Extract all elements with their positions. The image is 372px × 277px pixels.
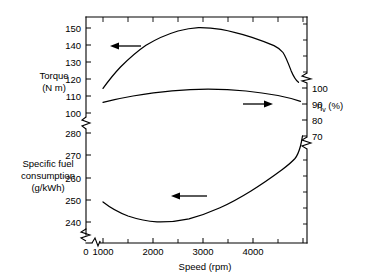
- ticklabel-torque-130: 130: [65, 57, 81, 68]
- eta-axis-title: ηv (%): [317, 100, 343, 113]
- ticklabel-eta-80: 80: [312, 115, 323, 126]
- ticklabel-x-0: 0: [83, 246, 88, 257]
- right-axis-break-upper: [302, 73, 311, 83]
- left-axis-ticks-torque: [86, 28, 91, 113]
- ticklabel-torque-100: 100: [65, 108, 81, 119]
- eta-v-curve: [103, 89, 301, 102]
- ticklabel-torque-140: 140: [65, 40, 81, 51]
- sfc-arrow: [171, 193, 207, 200]
- sfc-curve: [103, 136, 303, 222]
- torque-axis-title-line2: (N m): [42, 82, 66, 93]
- torque-arrow: [110, 43, 141, 50]
- eta-unit: (%): [328, 100, 343, 111]
- ticklabel-sfc-240: 240: [65, 217, 81, 228]
- torque-axis-title-line1: Torque: [39, 70, 68, 81]
- sfc-axis-title-line2: consumption: [21, 170, 75, 181]
- bottom-axis-ticks: [103, 238, 303, 243]
- ticklabel-sfc-250: 250: [65, 195, 81, 206]
- left-axis-ticks-sfc: [86, 133, 91, 222]
- plot-frame: [86, 17, 307, 243]
- ticklabel-torque-110: 110: [66, 91, 81, 102]
- eta-arrow: [243, 101, 273, 108]
- bottom-ticklabels: 0 1000 2000 3000 4000: [83, 246, 263, 257]
- right-axis-break-lower: [302, 137, 311, 149]
- torque-curve: [103, 28, 299, 89]
- ticklabel-x-3000: 3000: [192, 246, 213, 257]
- right-axis-ticks-eta: [302, 24, 307, 224]
- ticklabel-x-4000: 4000: [242, 246, 263, 257]
- ticklabel-x-1000: 1000: [92, 246, 113, 257]
- chart-canvas: 150 140 130 120 110 100 280 270 260 250 …: [0, 0, 372, 277]
- xaxis-title: Speed (rpm): [179, 261, 232, 272]
- x-axis-break: [92, 238, 100, 246]
- ticklabel-torque-150: 150: [65, 23, 81, 34]
- ticklabel-x-2000: 2000: [142, 246, 163, 257]
- ticklabel-eta-100: 100: [312, 83, 328, 94]
- data-curves: [103, 28, 303, 222]
- annotation-arrows: [110, 43, 273, 200]
- ticklabel-eta-70: 70: [312, 131, 323, 142]
- sfc-axis-title-line3: (g/kWh): [31, 182, 64, 193]
- top-axis-ticks: [103, 17, 303, 22]
- left-axis-break-upper: [82, 117, 90, 129]
- engine-performance-chart: 150 140 130 120 110 100 280 270 260 250 …: [0, 0, 372, 277]
- sfc-axis-title-line1: Specific fuel: [22, 158, 73, 169]
- ticklabel-sfc-280: 280: [65, 128, 81, 139]
